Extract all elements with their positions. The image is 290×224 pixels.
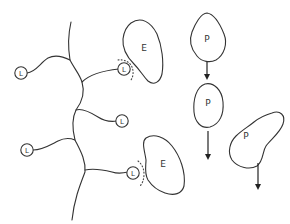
e-body-1-label: E [141, 43, 147, 53]
e-body-2: E [138, 136, 184, 195]
p-body-2-label: P [205, 98, 211, 108]
e-body-2-label: E [160, 159, 166, 169]
l-node-1: L [15, 67, 27, 79]
l-node-3-label: L [120, 118, 124, 126]
branch-l4 [33, 139, 75, 150]
p-body-1: P [191, 13, 226, 62]
l-node-4: L [21, 144, 33, 156]
l-node-5: L [127, 167, 139, 179]
l-node-5-label: L [131, 170, 135, 178]
branch-l5 [85, 169, 128, 173]
l-node-1-label: L [19, 70, 23, 78]
p-arrow-1-head [204, 74, 210, 80]
p-body-3-outline [229, 112, 283, 168]
branch-l1 [27, 56, 70, 73]
diagram-canvas: E E L L L L L P P [0, 0, 290, 224]
p-body-2: P [194, 84, 223, 128]
branch-l2 [82, 69, 119, 82]
p-body-3: P [229, 112, 283, 168]
l-node-4-label: L [25, 147, 29, 155]
main-stem [69, 22, 86, 220]
p-body-1-label: P [204, 34, 210, 44]
p-arrow-2 [205, 131, 211, 160]
l-node-2: L [118, 63, 130, 75]
p-arrow-2-head [205, 154, 211, 160]
p-arrow-1 [204, 62, 210, 80]
l-node-2-label: L [122, 66, 126, 74]
l-node-3: L [116, 115, 128, 127]
p-arrow-3-head [255, 184, 261, 190]
branch-l3 [76, 109, 117, 121]
p-body-3-label: P [243, 131, 249, 141]
